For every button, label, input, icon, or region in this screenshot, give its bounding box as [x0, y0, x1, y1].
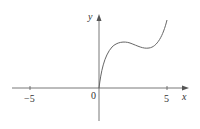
x-tick-label-5: 5 [164, 93, 169, 104]
x-tick-label-neg5: −5 [24, 93, 35, 104]
x-axis-label: x [181, 91, 187, 102]
y-axis-arrow-icon [97, 14, 102, 21]
function-curve [99, 20, 167, 88]
graph-svg: −5 0 5 x y [0, 0, 200, 129]
graph-figure: −5 0 5 x y [0, 0, 200, 129]
origin-label: 0 [91, 90, 96, 101]
y-axis-label: y [87, 11, 93, 22]
x-axis-arrow-icon [182, 86, 189, 91]
